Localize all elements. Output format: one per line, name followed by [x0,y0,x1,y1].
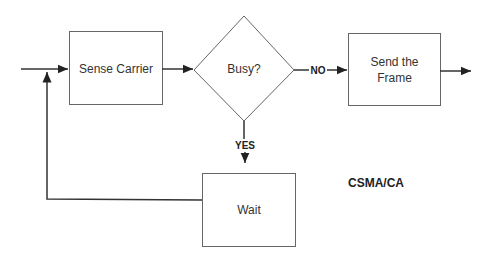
send-frame-line1: Send the [348,54,441,70]
no-edge-label: NO [308,63,328,79]
yes-edge-label: YES [230,138,260,154]
diagram-title: CSMA/CA [348,176,404,190]
send-frame-line2: Frame [348,70,441,86]
busy-label: Busy? [194,61,294,77]
sense-carrier-label: Sense Carrier [69,61,163,77]
wait-label: Wait [202,202,296,218]
flowchart-canvas [0,0,492,259]
send-frame-label: Send the Frame [348,54,441,86]
